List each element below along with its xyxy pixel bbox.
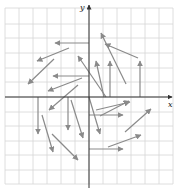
vector-arrow (28, 59, 54, 84)
vector-arrow (37, 48, 69, 61)
vector-arrow (42, 115, 53, 152)
y-axis-label: y (79, 3, 85, 12)
vector-field-plot: x y (0, 0, 174, 193)
vector-arrow (71, 100, 83, 138)
vector-arrow (125, 109, 151, 132)
vector-arrow (101, 33, 126, 84)
vector-arrow (48, 78, 82, 91)
vector-arrow (52, 134, 78, 160)
x-axis-label: x (168, 100, 173, 109)
